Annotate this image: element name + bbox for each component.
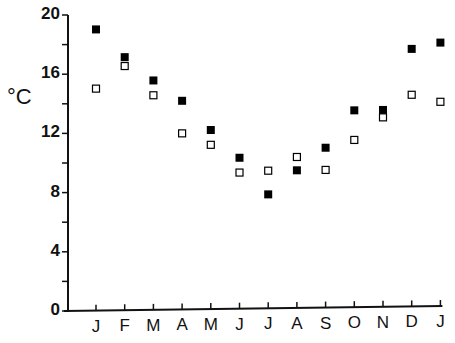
y-axis-label: °C (7, 84, 32, 110)
x-tick-label: N (371, 313, 395, 333)
open-square-marker (380, 114, 387, 121)
x-tick-label: J (84, 317, 108, 337)
open-square-marker (265, 167, 272, 174)
filled-square-marker (293, 166, 301, 174)
open-square-marker (437, 98, 444, 105)
x-tick-label: M (141, 316, 165, 336)
open-square-marker (207, 141, 214, 148)
open-square-marker (179, 130, 186, 137)
filled-square-marker (322, 144, 330, 152)
x-tick-label: F (113, 316, 137, 336)
open-square-marker (293, 153, 300, 160)
x-tick-label: S (314, 314, 338, 334)
filled-square-marker (92, 25, 100, 33)
x-tick-label: J (256, 314, 280, 334)
open-square-marker (93, 85, 100, 92)
y-tick-label: 4 (20, 241, 60, 261)
x-tick-label: A (170, 315, 194, 335)
filled-square-marker (379, 106, 387, 114)
x-tick-label: D (400, 312, 424, 332)
filled-square-marker (207, 126, 215, 134)
x-axis-line (64, 306, 442, 311)
x-tick-label: J (228, 315, 252, 335)
open-square-marker (236, 169, 243, 176)
open-square-marker (408, 91, 415, 98)
filled-square-marker (436, 39, 444, 47)
x-tick-label: A (285, 314, 309, 334)
filled-square-marker (264, 190, 272, 198)
y-tick-label: 0 (20, 300, 60, 320)
x-tick-label: J (428, 312, 452, 332)
x-tick-label: M (199, 315, 223, 335)
filled-square-marker (350, 106, 358, 114)
plot-area (0, 0, 455, 343)
filled-square-marker (178, 97, 186, 105)
filled-square-marker (149, 76, 157, 84)
filled-square-marker (121, 53, 129, 61)
y-tick-label: 20 (20, 4, 60, 24)
open-square-marker (121, 63, 128, 70)
filled-square-marker (408, 45, 416, 53)
filled-square-marker (236, 154, 244, 162)
open-square-marker (351, 136, 358, 143)
temperature-scatter-chart: °C 048121620 JFMAMJJASONDJ (0, 0, 455, 343)
y-tick-label: 8 (20, 182, 60, 202)
open-square-marker (322, 166, 329, 173)
y-tick-label: 16 (20, 63, 60, 83)
x-tick-label: O (342, 313, 366, 333)
y-tick-label: 12 (20, 122, 60, 142)
open-square-marker (150, 92, 157, 99)
